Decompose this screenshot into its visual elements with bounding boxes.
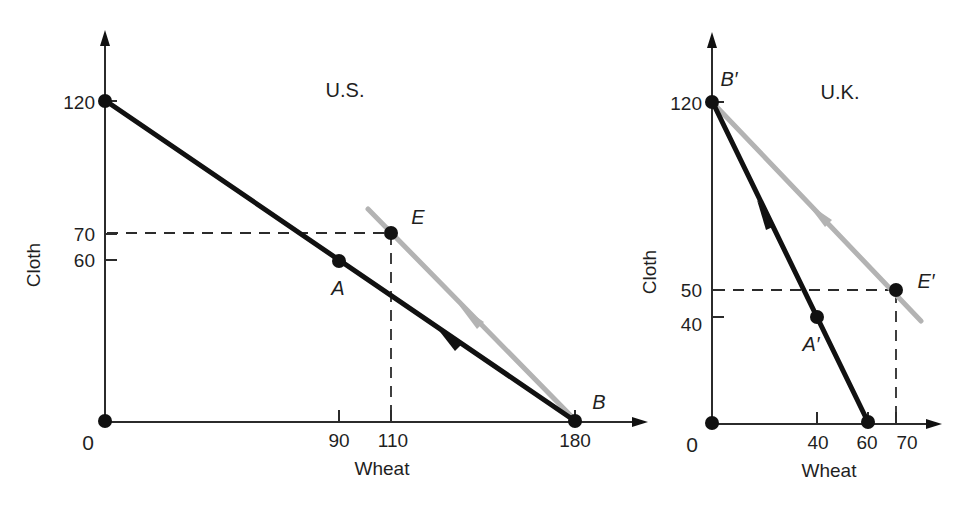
us-y-axis-arrowhead [100,30,110,46]
us-y-tick-label-60: 60 [74,250,95,271]
uk-panel-title: U.K. [821,81,860,103]
uk-point-wheat-intercept [861,415,875,429]
uk-ppf-line-arrowhead [757,200,775,230]
us-x-tick-label-90: 90 [328,430,349,451]
ppf-chart-svg: 120 70 60 90 110 180 0 Wheat Cloth U.S. … [0,0,965,508]
us-y-tick-label-120: 120 [63,92,95,113]
uk-panel: 120 50 40 40 60 70 0 Wheat Cloth U.K. B′… [639,32,942,481]
uk-x-tick-label-60: 60 [856,432,877,453]
uk-x-tick-label-70: 70 [896,432,917,453]
uk-point-a-prime [810,310,824,324]
us-y-axis-title: Cloth [23,243,44,287]
uk-y-axis-title: Cloth [639,250,660,294]
uk-y-axis-arrowhead [707,32,717,48]
uk-point-e-prime [889,283,903,297]
us-trade-line-arrowhead [459,305,484,329]
uk-y-tick-label-120: 120 [670,93,702,114]
us-x-tick-label-180: 180 [559,430,591,451]
uk-y-tick-label-50: 50 [681,280,702,301]
uk-trade-line-arrowhead [807,203,832,227]
us-panel: 120 70 60 90 110 180 0 Wheat Cloth U.S. … [23,30,648,479]
uk-point-label-b-prime: B′ [720,68,738,90]
uk-point-label-a-prime: A′ [801,333,820,355]
two-panel-ppf-figure: 120 70 60 90 110 180 0 Wheat Cloth U.S. … [0,0,965,508]
uk-y-tick-label-40: 40 [681,314,702,335]
us-point-b [568,414,582,428]
us-point-e [384,226,398,240]
us-panel-title: U.S. [326,79,365,101]
uk-x-axis-arrowhead [926,419,942,429]
uk-ppf-line [713,103,868,422]
us-point-label-a: A [330,277,344,299]
us-x-tick-label-110: 110 [378,430,408,451]
uk-x-axis-title: Wheat [802,460,858,481]
us-point-label-e: E [411,206,425,228]
uk-point-origin [705,416,719,430]
us-y-tick-label-70: 70 [74,224,95,245]
uk-point-b-prime [705,95,719,109]
us-point-origin [98,414,112,428]
us-point-a [332,254,346,268]
uk-origin-label: 0 [686,433,698,456]
us-x-axis-arrowhead [632,417,648,427]
uk-point-label-e-prime: E′ [917,270,935,292]
us-x-axis-title: Wheat [355,458,411,479]
us-point-label-b: B [592,391,605,413]
uk-x-tick-label-40: 40 [807,432,828,453]
us-point-cloth-intercept [98,94,112,108]
us-origin-label: 0 [82,431,94,454]
